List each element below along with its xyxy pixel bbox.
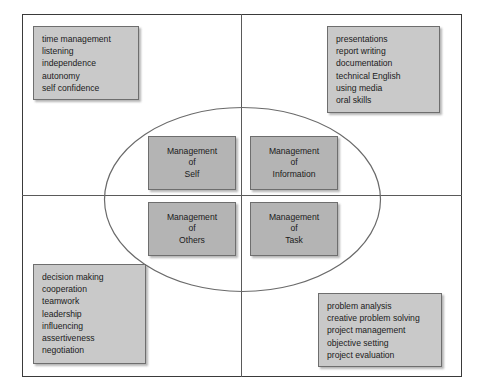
skills-list-management-of-others: decision making cooperation teamwork lea… (33, 264, 146, 364)
core-box-management-of-others: Management of Others (148, 202, 236, 256)
list-item: listening (42, 45, 130, 57)
core-box-line: of (188, 223, 195, 235)
list-item: teamwork (42, 295, 137, 307)
list-item: negotiation (42, 344, 137, 356)
core-box-management-of-task: Management of Task (250, 202, 338, 256)
list-item: creative problem solving (327, 312, 433, 324)
list-item: independence (42, 57, 130, 69)
core-box-line: Management (167, 146, 217, 158)
core-box-line: of (290, 223, 297, 235)
management-skills-diagram: time management listening independence a… (0, 0, 483, 391)
skills-list-management-of-information: presentations report writing documentati… (327, 26, 440, 113)
list-item: using media (336, 82, 431, 94)
list-item: problem analysis (327, 300, 433, 312)
list-item: oral skills (336, 94, 431, 106)
core-box-line: of (188, 157, 195, 169)
list-item: influencing (42, 320, 137, 332)
list-item: autonomy (42, 70, 130, 82)
list-item: project evaluation (327, 349, 433, 361)
list-item: decision making (42, 271, 137, 283)
list-item: presentations (336, 33, 431, 45)
list-item: report writing (336, 45, 431, 57)
list-item: cooperation (42, 283, 137, 295)
horizontal-divider-line (22, 195, 462, 196)
core-box-management-of-information: Management of Information (250, 136, 338, 190)
core-box-line: Task (285, 235, 303, 247)
core-box-line: of (290, 157, 297, 169)
list-item: objective setting (327, 337, 433, 349)
core-box-line: Information (273, 169, 316, 181)
list-item: time management (42, 33, 130, 45)
core-box-line: Management (269, 146, 319, 158)
list-item: leadership (42, 308, 137, 320)
list-item: technical English (336, 70, 431, 82)
core-box-line: Others (179, 235, 205, 247)
core-box-line: Management (269, 212, 319, 224)
list-item: assertiveness (42, 332, 137, 344)
list-item: self confidence (42, 82, 130, 94)
skills-list-management-of-self: time management listening independence a… (33, 26, 139, 100)
core-box-management-of-self: Management of Self (148, 136, 236, 190)
skills-list-management-of-task: problem analysis creative problem solvin… (318, 293, 442, 367)
core-box-line: Management (167, 212, 217, 224)
list-item: project management (327, 324, 433, 336)
core-box-line: Self (185, 169, 200, 181)
list-item: documentation (336, 57, 431, 69)
